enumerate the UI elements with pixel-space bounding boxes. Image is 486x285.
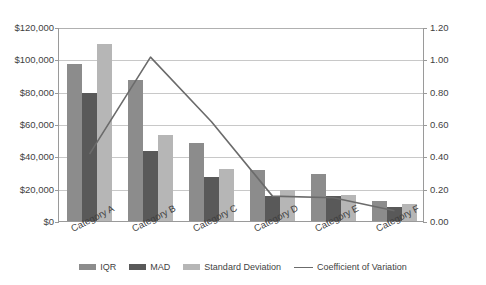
- y-axis-left-tick-label: $120,000: [14, 23, 54, 33]
- legend-swatch-sd: [183, 264, 200, 270]
- y-axis-left-tick-label: $20,000: [20, 185, 54, 195]
- chart-legend: IQRMADStandard DeviationCoefficient of V…: [0, 262, 486, 272]
- y-axis-left-tick-label: $80,000: [20, 88, 54, 98]
- bar-group: [59, 44, 120, 222]
- bar-groups: [59, 28, 423, 222]
- legend-item[interactable]: Coefficient of Variation: [294, 262, 407, 272]
- y-axis-right-tick-label: 1.00: [430, 56, 449, 66]
- bar-iqr: [67, 64, 82, 222]
- bar-iqr: [189, 143, 204, 222]
- chart-container: $0$20,000$40,000$60,000$80,000$100,000$1…: [0, 0, 486, 285]
- y-axis-left-tick-label: $40,000: [20, 153, 54, 163]
- axis-tick: [423, 157, 427, 158]
- axis-tick: [423, 190, 427, 191]
- bar-group: [120, 80, 181, 222]
- axis-tick: [423, 28, 427, 29]
- y-axis-right-tick-label: 0.60: [430, 120, 449, 130]
- legend-line-marker: [294, 267, 313, 268]
- y-axis-left-tick-label: $60,000: [20, 120, 54, 130]
- plot-area: [58, 28, 424, 222]
- y-axis-left-tick-label: $100,000: [14, 56, 54, 66]
- axis-tick: [423, 60, 427, 61]
- y-axis-right-tick-label: 0.00: [430, 217, 449, 227]
- legend-label: Standard Deviation: [204, 262, 281, 272]
- bar-sd: [97, 44, 112, 222]
- legend-label: MAD: [150, 262, 170, 272]
- x-axis-baseline: [59, 221, 423, 222]
- y-axis-left-tick-label: $0: [43, 217, 54, 227]
- bar-iqr: [250, 170, 265, 222]
- legend-item[interactable]: IQR: [79, 262, 116, 272]
- legend-item[interactable]: MAD: [129, 262, 170, 272]
- y-axis-right-tick-label: 0.20: [430, 185, 449, 195]
- bar-iqr: [311, 174, 326, 223]
- axis-tick: [55, 222, 59, 223]
- bar-mad: [82, 93, 97, 222]
- y-axis-right-tick-label: 0.80: [430, 88, 449, 98]
- x-axis-labels: Category ACategory BCategory CCategory D…: [58, 224, 424, 260]
- legend-swatch-mad: [129, 264, 146, 270]
- axis-tick: [423, 93, 427, 94]
- bar-iqr: [128, 80, 143, 222]
- legend-swatch-iqr: [79, 264, 96, 270]
- legend-item[interactable]: Standard Deviation: [183, 262, 281, 272]
- axis-tick: [423, 222, 427, 223]
- y-axis-right-tick-label: 0.40: [430, 153, 449, 163]
- axis-tick: [423, 125, 427, 126]
- y-axis-right-tick-label: 1.20: [430, 23, 449, 33]
- legend-label: IQR: [100, 262, 116, 272]
- legend-label: Coefficient of Variation: [317, 262, 407, 272]
